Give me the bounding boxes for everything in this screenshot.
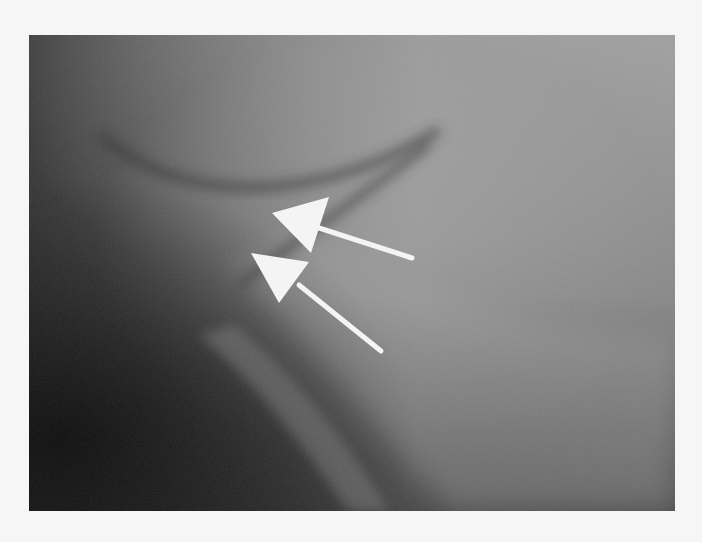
xray-image <box>29 35 675 511</box>
film-grain <box>29 35 675 511</box>
page: Grayscale X-ray image with two white arr… <box>0 0 702 542</box>
xray-canvas <box>29 35 675 511</box>
